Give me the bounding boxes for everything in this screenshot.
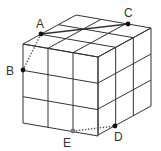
right-face-line xyxy=(98,80,151,109)
segment-ed xyxy=(73,126,115,131)
front-face-line xyxy=(23,70,98,83)
point-b-label: B xyxy=(6,64,14,78)
point-a-marker xyxy=(39,32,44,37)
segment-ac xyxy=(41,24,128,34)
point-c-label: C xyxy=(124,6,133,20)
right-face-line xyxy=(98,106,151,135)
top-face-line xyxy=(48,19,101,48)
point-e-label: E xyxy=(63,136,71,150)
point-c-marker xyxy=(126,22,131,27)
point-e-marker xyxy=(71,129,76,134)
point-b-marker xyxy=(21,68,26,73)
top-face-line xyxy=(23,44,98,57)
cube-diagram: ABCDE xyxy=(0,0,161,151)
top-face-line xyxy=(73,24,126,53)
top-face-line xyxy=(23,15,76,44)
right-face-line xyxy=(98,54,151,83)
top-face-line xyxy=(98,28,151,57)
top-face-line xyxy=(41,34,116,47)
point-d-marker xyxy=(113,124,118,129)
point-a-label: A xyxy=(36,17,44,31)
point-d-label: D xyxy=(114,130,123,144)
front-face-line xyxy=(23,123,98,136)
front-face-line xyxy=(23,97,98,110)
